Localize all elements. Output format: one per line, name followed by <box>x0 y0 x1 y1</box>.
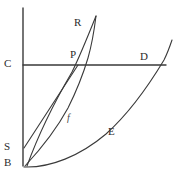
label-E: E <box>108 126 115 137</box>
label-D: D <box>140 51 148 62</box>
label-S: S <box>4 141 10 152</box>
label-R: R <box>74 17 81 28</box>
curve-E <box>24 40 172 167</box>
label-B: B <box>4 157 11 168</box>
figure-canvas <box>0 0 178 174</box>
label-P: P <box>70 49 76 60</box>
geometry-figure: C P D R S B E f <box>0 0 178 174</box>
label-f: f <box>67 112 70 123</box>
label-C: C <box>4 58 11 69</box>
curve-R <box>27 16 96 166</box>
